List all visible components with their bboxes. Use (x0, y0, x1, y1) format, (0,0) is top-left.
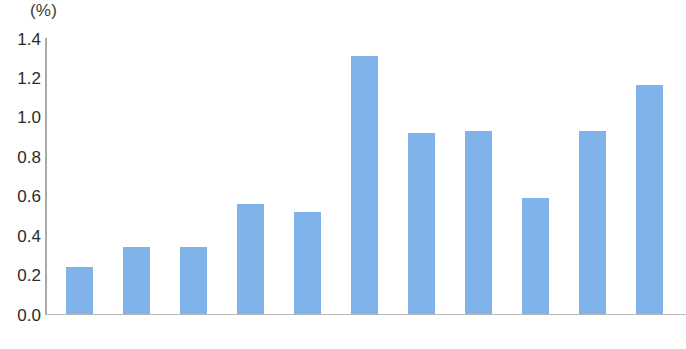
bars-layer (66, 30, 686, 314)
y-tick-label-0-4: 0.4 (1, 228, 41, 245)
y-axis-unit-label: (%) (30, 1, 57, 21)
bar-chart-figure: (%) 1.4 1.2 1.0 0.8 0.6 0.4 0.2 0.0 2006 (0, 0, 686, 349)
y-axis-line (45, 38, 47, 315)
bar-2016 (636, 85, 663, 314)
bar-2010 (294, 212, 321, 315)
bar-2006 (66, 267, 93, 314)
bar-2011 (351, 56, 378, 314)
bar-2008 (180, 247, 207, 314)
bar-2015 (579, 131, 606, 314)
y-tick-label-0-0: 0.0 (1, 307, 41, 324)
bar-2009 (237, 204, 264, 314)
plot-area: 1.4 1.2 1.0 0.8 0.6 0.4 0.2 0.0 2006 200… (45, 30, 686, 315)
bar-2014 (522, 198, 549, 314)
y-tick-label-1-4: 1.4 (1, 31, 41, 48)
y-tick-label-1-0: 1.0 (1, 109, 41, 126)
bar-2013 (465, 131, 492, 314)
y-tick-label-0-6: 0.6 (1, 188, 41, 205)
y-tick-label-0-2: 0.2 (1, 267, 41, 284)
bar-2012 (408, 133, 435, 314)
y-tick-label-1-2: 1.2 (1, 70, 41, 87)
x-axis-line (45, 314, 686, 315)
bar-2007 (123, 247, 150, 314)
y-tick-label-0-8: 0.8 (1, 149, 41, 166)
